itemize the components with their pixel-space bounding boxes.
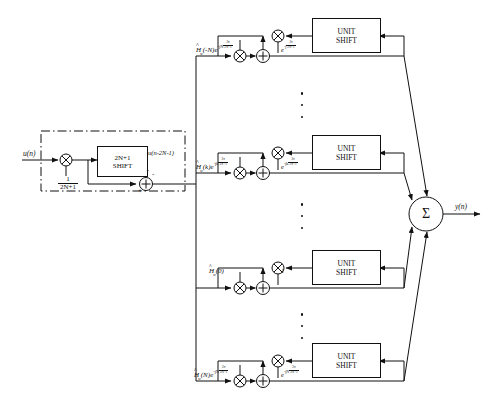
- unit-shift-line2-2: SHIFT: [336, 153, 357, 162]
- shift-block-line2: SHIFT: [113, 162, 132, 170]
- ellipsis-dot: [301, 227, 304, 230]
- coeff-subscript-1: w: [200, 51, 203, 56]
- ellipsis-dot: [301, 203, 304, 206]
- unit-shift-block-1: UNIT SHIFT: [312, 18, 381, 53]
- feedback-coefficient-label-4: e-jN2π2N+1: [281, 369, 299, 378]
- coeff-argument-2: (k): [203, 163, 211, 171]
- feedback-den-1: 2N+1: [286, 45, 295, 49]
- branch-ellipsis-upper: [300, 92, 304, 118]
- branch-ellipsis-middle: [300, 203, 304, 229]
- ellipsis-dot: [301, 104, 304, 107]
- ellipsis-dot: [301, 215, 304, 218]
- ellipsis-dot: [301, 116, 304, 119]
- output-signal-label: y(n): [455, 203, 467, 211]
- shift-block: 2N+1 SHIFT: [97, 146, 148, 177]
- feedback-den-4: 2N+1: [289, 370, 298, 374]
- input-signal-label: u(n): [23, 150, 36, 158]
- summation-node-symbol: Σ: [409, 197, 443, 231]
- prefilter-adder-plus-sign: +: [138, 188, 142, 195]
- coeff-argument-4: (N): [201, 371, 210, 379]
- coeff-subscript-3: w: [213, 272, 216, 277]
- ellipsis-dot: [301, 313, 304, 316]
- unit-shift-line2-1: SHIFT: [336, 36, 357, 45]
- branch-coefficient-label-4: H^w(N)e-jN2π2N+1: [194, 369, 228, 379]
- coeff-exp-den-4: 2N+1: [219, 370, 228, 374]
- shift-block-line1: 2N+1: [114, 154, 130, 162]
- gain-numerator: 1: [64, 176, 72, 183]
- unit-shift-line1-2: UNIT: [338, 144, 356, 153]
- coeff-subscript-4: w: [198, 376, 201, 381]
- unit-shift-block-4: UNIT SHIFT: [312, 343, 381, 378]
- unit-shift-line1-1: UNIT: [338, 27, 356, 36]
- feedback-coefficient-label-1: e-j2π2N+1: [281, 44, 296, 53]
- diagram-canvas: u(n) 1 2N+1 2N+1 SHIFT u(n-2N-1) - + H^w…: [0, 0, 494, 417]
- feedback-coefficient-label-3: 1: [281, 268, 284, 275]
- gain-denominator: 2N+1: [58, 183, 78, 191]
- branch-coefficient-label-1: H^w(-N)e-jN2π2N+1: [196, 44, 233, 54]
- unit-shift-line2-4: SHIFT: [336, 361, 357, 370]
- ellipsis-dot: [301, 337, 304, 340]
- unit-shift-block-3: UNIT SHIFT: [312, 250, 381, 285]
- unit-shift-line1-3: UNIT: [338, 259, 356, 268]
- branch-coefficient-label-2: H^w(k)e-jk2π2N+1: [196, 161, 228, 171]
- unit-shift-line2-3: SHIFT: [336, 268, 357, 277]
- ellipsis-dot: [301, 92, 304, 95]
- prefilter-adder-minus-sign: -: [152, 171, 154, 178]
- branch-ellipsis-lower: [300, 313, 304, 339]
- coeff-exp-den-2: 2N+1: [218, 162, 227, 166]
- coeff-argument-3: (0): [216, 267, 224, 275]
- shift-output-label: u(n-2N-1): [148, 150, 174, 157]
- coeff-subscript-2: w: [200, 168, 203, 173]
- branch-coefficient-label-3: H^w(0): [209, 268, 224, 275]
- prefilter-gain-label: 1 2N+1: [58, 176, 78, 191]
- feedback-coefficient-label-2: e-jk2π2N+1: [281, 161, 298, 170]
- unit-shift-line1-4: UNIT: [338, 352, 356, 361]
- coeff-argument-1: (-N): [203, 46, 215, 54]
- ellipsis-dot: [301, 325, 304, 328]
- unit-shift-block-2: UNIT SHIFT: [312, 135, 381, 170]
- feedback-base-3: 1: [281, 267, 284, 274]
- coeff-exp-den-1: 2N+1: [223, 45, 232, 49]
- feedback-den-2: 2N+1: [288, 162, 297, 166]
